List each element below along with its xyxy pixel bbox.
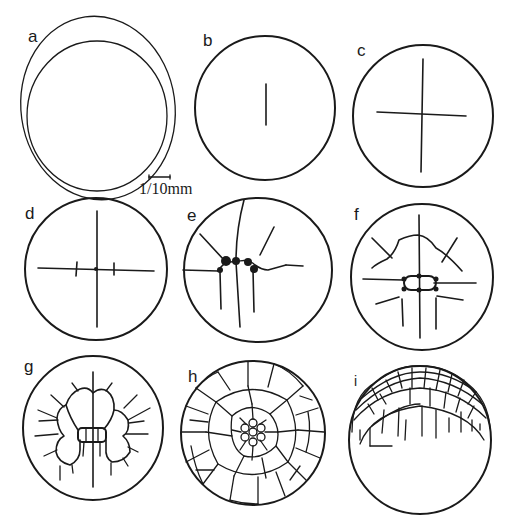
figure-drawing xyxy=(0,0,509,529)
panel-g-circle xyxy=(23,356,163,500)
panel-e-circle xyxy=(183,198,332,342)
panel-i-circle xyxy=(349,366,491,514)
panel-b-circle xyxy=(195,36,335,180)
cleavage-figure: a b c d e f g h i 1/10mm xyxy=(0,0,509,529)
panel-a-egg xyxy=(9,6,187,210)
panel-h-circle xyxy=(181,361,325,505)
panel-d-circle xyxy=(25,198,167,340)
panel-c-circle xyxy=(353,45,493,187)
panel-f-circle xyxy=(351,204,493,350)
